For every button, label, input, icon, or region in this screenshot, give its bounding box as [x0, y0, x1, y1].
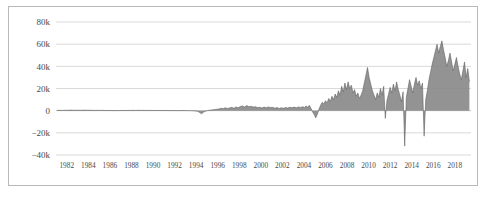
- y-tick-label: −20k: [31, 128, 50, 138]
- x-tick-label: 1988: [124, 161, 139, 170]
- x-tick-label: 1990: [146, 161, 161, 170]
- x-tick-label: 1982: [59, 161, 74, 170]
- x-tick-label: 2018: [448, 161, 463, 170]
- y-tick-label: 60k: [37, 39, 51, 49]
- y-tick-label: 0: [46, 106, 51, 116]
- x-tick-label: 2004: [297, 161, 312, 170]
- x-tick-label: 1992: [167, 161, 182, 170]
- x-tick-label: 2000: [254, 161, 269, 170]
- y-axis-tick-labels: −40k−20k020k40k60k80k: [31, 17, 50, 160]
- x-tick-label: 2002: [275, 161, 290, 170]
- x-tick-label: 2012: [383, 161, 398, 170]
- x-tick-label: 2010: [361, 161, 376, 170]
- x-tick-label: 1984: [81, 161, 96, 170]
- series-area-fill: [57, 41, 469, 146]
- x-tick-label: 1998: [232, 161, 247, 170]
- x-tick-label: 2016: [426, 161, 441, 170]
- y-tick-label: 80k: [37, 17, 51, 27]
- x-axis-tick-labels: 1982198419861988199019921994199619982000…: [59, 161, 462, 170]
- y-tick-label: −40k: [31, 150, 50, 160]
- x-tick-label: 1996: [210, 161, 225, 170]
- chart-figure: −40k−20k020k40k60k80k 198219841986198819…: [0, 0, 489, 202]
- x-tick-label: 1994: [189, 161, 204, 170]
- x-tick-label: 2014: [404, 161, 419, 170]
- chart-plot-frame: −40k−20k020k40k60k80k 198219841986198819…: [8, 6, 478, 186]
- y-tick-label: 20k: [37, 84, 51, 94]
- x-tick-label: 2006: [318, 161, 333, 170]
- x-tick-label: 1986: [103, 161, 118, 170]
- x-tick-label: 2008: [340, 161, 355, 170]
- area-chart: −40k−20k020k40k60k80k 198219841986198819…: [9, 7, 477, 185]
- y-tick-label: 40k: [37, 62, 51, 72]
